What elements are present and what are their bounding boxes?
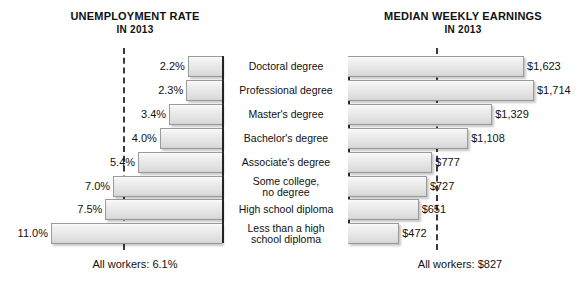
category-label-line1: Associate's degree: [226, 157, 346, 168]
earnings-bar-row: $1,714: [348, 80, 578, 101]
earnings-value-label: $651: [422, 202, 446, 217]
unemployment-value-label: 2.3%: [158, 83, 183, 98]
earnings-bar: [348, 128, 468, 149]
earnings-value-label: $727: [430, 179, 454, 194]
category-label-line1: Some college,: [226, 176, 346, 187]
earnings-plot-area: $1,623$1,714$1,329$1,108$777$727$651$472: [348, 56, 578, 244]
unemployment-bar-row: 7.5%: [0, 199, 224, 220]
unemployment-value-label: 7.0%: [85, 179, 110, 194]
category-label: Some college,no degree: [226, 176, 346, 198]
unemployment-bar-row: 7.0%: [0, 176, 224, 197]
unemployment-bar: [188, 56, 222, 77]
earnings-bar: [348, 152, 432, 173]
unemployment-value-label: 3.4%: [141, 107, 166, 122]
unemployment-bar-row: 2.3%: [0, 80, 224, 101]
earnings-value-label: $777: [435, 155, 459, 170]
earnings-bar: [348, 223, 399, 244]
category-label-column: Doctoral degreeProfessional degreeMaster…: [226, 56, 346, 244]
unemployment-bar: [113, 176, 222, 197]
earnings-value-label: $1,714: [537, 83, 571, 98]
category-label: Associate's degree: [226, 157, 346, 168]
unemployment-bar: [105, 199, 222, 220]
unemployment-bar: [186, 80, 222, 101]
unemployment-bar-row: 3.4%: [0, 104, 224, 125]
earnings-value-label: $1,623: [527, 59, 561, 74]
category-label: Doctoral degree: [226, 61, 346, 72]
unemployment-value-label: 4.0%: [132, 131, 157, 146]
earnings-bar: [348, 176, 427, 197]
earnings-bar: [348, 104, 492, 125]
right-panel-title-line2: IN 2013: [358, 23, 568, 36]
earnings-bar: [348, 80, 534, 101]
unemployment-bar: [138, 152, 222, 173]
earnings-all-workers-footer: All workers: $827: [350, 258, 570, 270]
education-pays-chart: UNEMPLOYMENT RATE IN 2013 MEDIAN WEEKLY …: [0, 0, 578, 288]
category-label-line2: school diploma: [226, 234, 346, 245]
earnings-bar-row: $1,108: [348, 128, 578, 149]
unemployment-bar-row: 5.4%: [0, 152, 224, 173]
category-label: High school diploma: [226, 204, 346, 215]
left-panel-title: UNEMPLOYMENT RATE IN 2013: [40, 10, 230, 36]
earnings-bar-row: $472: [348, 223, 578, 244]
earnings-bar-row: $1,623: [348, 56, 578, 77]
unemployment-value-label: 2.2%: [160, 59, 185, 74]
category-label-line1: Bachelor's degree: [226, 133, 346, 144]
unemployment-bar-row: 4.0%: [0, 128, 224, 149]
earnings-bar-row: $727: [348, 176, 578, 197]
category-label: Master's degree: [226, 109, 346, 120]
unemployment-bar: [169, 104, 222, 125]
unemployment-bar: [51, 223, 222, 244]
category-label: Less than a highschool diploma: [226, 223, 346, 245]
unemployment-value-label: 11.0%: [18, 226, 48, 241]
earnings-bar-row: $1,329: [348, 104, 578, 125]
earnings-value-label: $1,329: [495, 107, 529, 122]
category-label-line1: Professional degree: [226, 85, 346, 96]
left-panel-title-line2: IN 2013: [40, 23, 230, 36]
right-panel-title: MEDIAN WEEKLY EARNINGS IN 2013: [358, 10, 568, 36]
category-label-line1: Doctoral degree: [226, 61, 346, 72]
right-panel-title-line1: MEDIAN WEEKLY EARNINGS: [384, 10, 542, 22]
unemployment-bar: [160, 128, 222, 149]
unemployment-plot-area: 2.2%2.3%3.4%4.0%5.4%7.0%7.5%11.0%: [0, 56, 224, 244]
unemployment-value-label: 7.5%: [77, 202, 102, 217]
earnings-bar-row: $651: [348, 199, 578, 220]
category-label-line2: no degree: [226, 187, 346, 198]
category-label: Bachelor's degree: [226, 133, 346, 144]
earnings-value-label: $472: [402, 226, 426, 241]
earnings-bar: [348, 56, 524, 77]
unemployment-all-workers-footer: All workers: 6.1%: [30, 258, 240, 270]
earnings-value-label: $1,108: [471, 131, 505, 146]
earnings-bar: [348, 199, 419, 220]
left-panel-title-line1: UNEMPLOYMENT RATE: [70, 10, 199, 22]
unemployment-value-label: 5.4%: [110, 155, 135, 170]
earnings-bar-row: $777: [348, 152, 578, 173]
unemployment-bar-row: 11.0%: [0, 223, 224, 244]
category-label-line1: Master's degree: [226, 109, 346, 120]
category-label-line1: High school diploma: [226, 204, 346, 215]
unemployment-bar-row: 2.2%: [0, 56, 224, 77]
category-label: Professional degree: [226, 85, 346, 96]
